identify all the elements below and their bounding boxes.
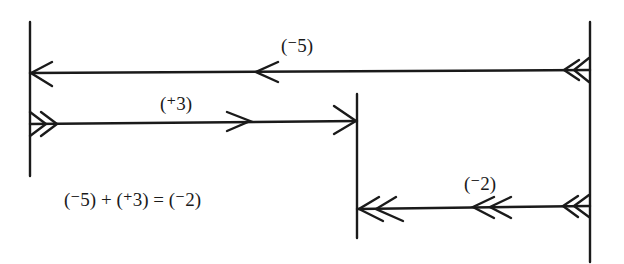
vector-minus-5 xyxy=(30,58,590,86)
vector-plus-3 xyxy=(30,106,357,136)
label-plus-3: (⁺3) xyxy=(160,92,192,115)
vector-minus-2 xyxy=(357,195,590,221)
label-minus-2: (⁻2) xyxy=(464,172,496,195)
equation: (⁻5) + (⁺3) = (⁻2) xyxy=(64,188,201,211)
label-minus-5: (⁻5) xyxy=(281,34,313,57)
